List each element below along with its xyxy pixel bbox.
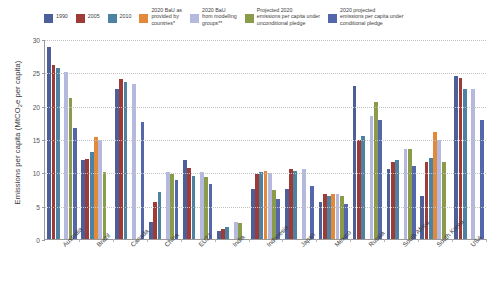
legend-item: 2020 BaU from modelling groups**	[190, 6, 237, 26]
y-tick-mark	[42, 73, 45, 74]
y-tick-mark	[42, 173, 45, 174]
bar-group	[45, 39, 79, 239]
bar	[323, 194, 327, 239]
bar-set	[81, 39, 111, 239]
x-label-cell: South Korea	[418, 240, 452, 296]
bar	[361, 136, 365, 239]
bar	[331, 194, 335, 239]
x-label-cell: South Africa	[384, 240, 418, 296]
x-label-cell: Russia	[350, 240, 384, 296]
bar-set	[318, 39, 348, 239]
bar	[52, 65, 56, 239]
gridline	[45, 107, 486, 108]
bar	[289, 169, 293, 239]
bar-set	[149, 39, 179, 239]
bar	[480, 120, 484, 239]
bar-group	[249, 39, 283, 239]
bar-group	[181, 39, 215, 239]
legend-item: Projected 2020 emissions per capita unde…	[245, 6, 320, 26]
y-tick-mark	[42, 140, 45, 141]
bar	[408, 149, 412, 239]
bar	[251, 189, 255, 239]
y-tick-label: 30	[14, 37, 40, 44]
bar-group	[147, 39, 181, 239]
bar	[387, 169, 391, 239]
bar	[336, 194, 340, 239]
bar	[149, 222, 153, 239]
legend-item: 2010	[108, 6, 132, 23]
bar	[209, 184, 213, 239]
legend-item: 2020 BaU as provided by countries*	[139, 6, 182, 26]
bar	[69, 98, 73, 239]
legend-label: 2020 BaU from modelling groups**	[202, 6, 237, 26]
x-label-cell: Australia	[44, 240, 78, 296]
bar	[56, 68, 60, 239]
bar	[370, 116, 374, 239]
x-label-cell: India	[214, 240, 248, 296]
bar-group	[79, 39, 113, 239]
bar	[221, 229, 225, 239]
bar	[153, 202, 157, 239]
bar	[64, 72, 68, 239]
x-label-cell: Japan	[282, 240, 316, 296]
bar	[378, 120, 382, 239]
legend-label: 1990	[56, 6, 68, 19]
legend-label: 2020 BaU as provided by countries*	[151, 6, 182, 26]
bar	[454, 76, 458, 239]
x-label-cell: Mexico	[316, 240, 350, 296]
bar	[395, 160, 399, 239]
bar-set	[454, 39, 484, 239]
legend-label: 2010	[120, 6, 132, 19]
bar	[404, 149, 408, 239]
bar	[225, 227, 229, 239]
bar-set	[217, 39, 247, 239]
bar	[463, 89, 467, 239]
bar	[187, 168, 191, 239]
x-label-cell: EU27	[180, 240, 214, 296]
bar	[437, 140, 441, 239]
y-tick-label: 10	[14, 170, 40, 177]
bar-set	[386, 39, 416, 239]
bar	[85, 159, 89, 239]
x-label-cell: Brazil	[78, 240, 112, 296]
bar-group	[113, 39, 147, 239]
bar-group	[350, 39, 384, 239]
bar	[302, 169, 306, 239]
bar	[90, 152, 94, 239]
bar	[183, 160, 187, 239]
x-tick-mark	[486, 239, 487, 242]
chart-legend: 1990200520102020 BaU as provided by coun…	[44, 6, 488, 40]
x-label-cell: China	[146, 240, 180, 296]
bar-set	[47, 39, 77, 239]
y-tick-label: 25	[14, 70, 40, 77]
bar	[459, 78, 463, 239]
legend-label: 2020 projected emissions per capita unde…	[340, 6, 403, 26]
y-tick-mark	[42, 207, 45, 208]
y-tick-label: 15	[14, 137, 40, 144]
y-axis-ticks: 051015202530	[14, 40, 40, 240]
legend-swatch-icon	[108, 14, 117, 23]
y-tick-mark	[42, 107, 45, 108]
bar	[353, 86, 357, 239]
bar-set	[352, 39, 382, 239]
bar	[357, 140, 361, 239]
y-tick-label: 5	[14, 203, 40, 210]
bar	[73, 128, 77, 239]
legend-label: 2005	[88, 6, 100, 19]
legend-item: 2020 projected emissions per capita unde…	[328, 6, 403, 26]
bar	[471, 89, 475, 239]
bar-set	[420, 39, 450, 239]
bar-set	[183, 39, 213, 239]
y-tick-label: 0	[14, 237, 40, 244]
bar	[319, 202, 323, 239]
gridline	[45, 40, 486, 41]
bar	[47, 47, 51, 239]
x-label-cell: USA	[452, 240, 486, 296]
bar	[429, 158, 433, 239]
bar-group	[215, 39, 249, 239]
axes	[44, 40, 486, 240]
legend-swatch-icon	[190, 14, 199, 23]
x-axis-labels: AustraliaBrazilCanadaChinaEU27IndiaIndon…	[44, 240, 486, 296]
bar-set	[251, 39, 281, 239]
gridline	[45, 173, 486, 174]
